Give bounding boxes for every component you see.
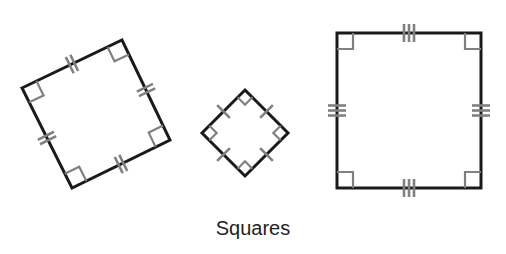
axis-aligned-square-right (328, 24, 490, 197)
rotated-square-left (22, 40, 170, 188)
right-angle-marker (209, 126, 216, 141)
right-angle-marker (273, 126, 280, 141)
right-angle-marker (465, 172, 481, 188)
squares-diagram: Squares (0, 0, 506, 254)
square-outline (202, 90, 288, 176)
diamond-square-middle (202, 90, 288, 176)
figure-canvas: Squares (0, 0, 506, 254)
square-outline (22, 40, 170, 188)
right-angle-marker (337, 172, 353, 188)
figure-caption: Squares (216, 217, 291, 239)
right-angle-marker (337, 33, 353, 49)
right-angle-marker (238, 161, 253, 168)
square-outline (337, 33, 481, 188)
right-angle-marker (238, 97, 253, 104)
right-angle-marker (465, 33, 481, 49)
